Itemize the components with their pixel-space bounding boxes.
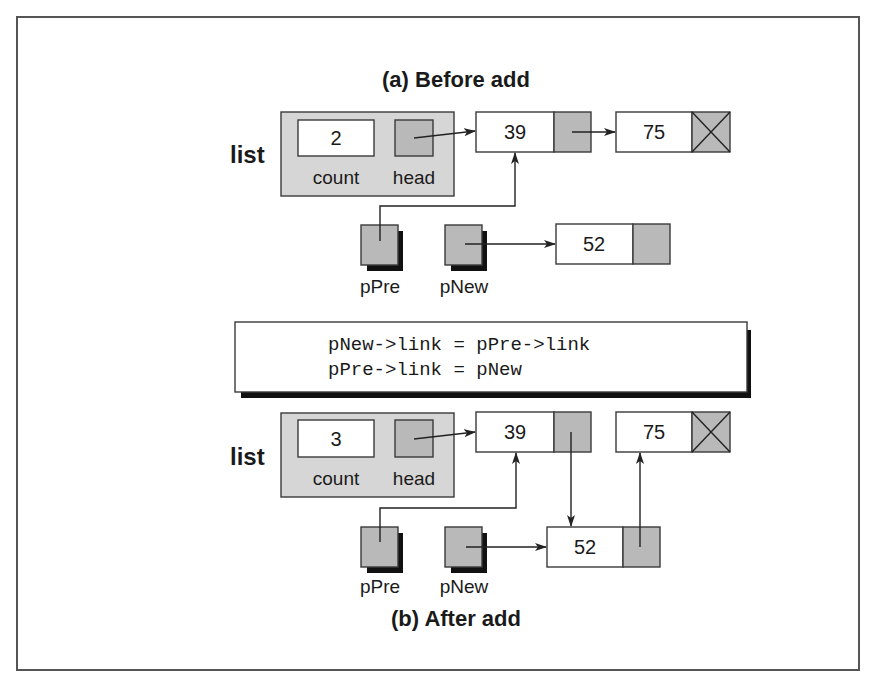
before-head-label: head [393,167,435,188]
before-node-52-value: 52 [583,233,605,255]
code-line-1: pNew->link = pPre->link [328,334,590,356]
after-list-label: list [230,443,265,470]
before-list-label: list [230,141,265,168]
after-node-52-link [623,527,660,567]
after-node-39-value: 39 [504,421,526,443]
title-after: (b) After add [391,606,521,631]
diagram-canvas: (a) Before add list 2 count head 39 75 p… [0,0,874,684]
before-node-39-value: 39 [504,121,526,143]
after-node-39-link [554,412,591,452]
title-before: (a) Before add [382,67,530,92]
code-box: pNew->link = pPre->link pPre->link = pNe… [235,322,751,398]
before-section: list 2 count head 39 75 pPre pNew 52 [230,112,730,297]
after-head-label: head [393,468,435,489]
after-node-75-value: 75 [643,421,665,443]
after-pnew-label: pNew [440,576,489,597]
code-box-frame [235,322,747,392]
before-count-label: count [313,167,360,188]
before-node-75-value: 75 [643,121,665,143]
after-count-label: count [313,468,360,489]
after-section: list 3 count head 39 75 52 pPre [230,412,730,597]
before-count-value: 2 [330,127,341,149]
after-node-52-value: 52 [574,536,596,558]
after-ppre-label: pPre [360,576,400,597]
before-node-52-link [633,224,670,264]
before-pnew-pointer [445,225,482,265]
before-ppre-label: pPre [360,276,400,297]
after-count-value: 3 [330,428,341,450]
code-line-2: pPre->link = pNew [328,359,522,381]
before-pnew-label: pNew [440,276,489,297]
